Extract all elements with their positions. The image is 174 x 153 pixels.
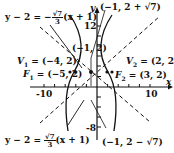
asymptote-bottom-equation: y − 2 = √73(x + 1) [5, 133, 90, 148]
vertex-v2-point [105, 70, 108, 73]
label-f1: F1 = (−5, 2) [23, 70, 82, 81]
y-tick-label-neg8: -8 [86, 124, 96, 133]
label-f2: F2 = (3, 2) [115, 71, 167, 82]
label-bottom-vertex: (−1, 2 − √7) [102, 138, 163, 147]
x-axis-label: x [166, 78, 171, 87]
hyperbola-right-branch [101, 15, 116, 131]
x-tick-label-10: 10 [145, 90, 158, 99]
x-tick-label-neg10: -10 [36, 90, 52, 99]
label-v1: V1 = (−4, 2) [17, 57, 77, 68]
y-tick-label-12: 12 [84, 22, 97, 31]
center-point [89, 70, 93, 74]
label-v2: V2 = (2, 2) [126, 57, 174, 68]
focus-f2-point [110, 70, 113, 73]
pointer-lower-left [68, 100, 84, 125]
y-axis-label: y [90, 4, 95, 13]
label-top-vertex: (−1, 2 + √7) [100, 3, 161, 12]
label-center: (−1, 2) [72, 44, 107, 53]
